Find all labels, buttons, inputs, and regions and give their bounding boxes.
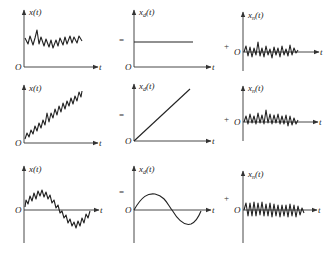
t-axis-label: t — [212, 136, 215, 146]
origin-label: O — [15, 62, 22, 72]
row2-noise-plot: xn(t) O t — [234, 83, 322, 141]
row1-noise-plot: xn(t) O t — [234, 10, 323, 71]
origin-label: O — [125, 62, 132, 72]
signal-trace — [25, 30, 82, 48]
t-axis-label: t — [320, 47, 323, 57]
t-axis-label: t — [318, 205, 321, 215]
origin-label: O — [15, 205, 22, 215]
row3-total-plot: x(t) O t — [15, 164, 103, 243]
y-axis-label: xn(t) — [247, 83, 264, 94]
origin-label: O — [234, 205, 241, 215]
noise-trace — [244, 42, 298, 58]
y-axis-label: xd(t) — [138, 164, 155, 175]
row1-total-plot: x(t) O t — [15, 7, 102, 72]
row2-total-plot: x(t) O t — [15, 83, 102, 148]
y-axis-label: x(t) — [28, 83, 42, 93]
noise-trace — [244, 110, 298, 126]
equals-sign: = — [119, 35, 124, 45]
plus-sign: + — [224, 193, 229, 203]
row3-noise-plot: xn(t) O t — [234, 169, 321, 243]
y-axis-label: x(t) — [28, 164, 42, 174]
origin-label: O — [234, 117, 241, 127]
plus-sign: + — [224, 114, 229, 124]
origin-label: O — [125, 136, 132, 146]
linear-trend-line — [134, 89, 190, 141]
noise-trace — [244, 202, 304, 217]
equals-sign: = — [119, 110, 124, 120]
sinusoid-curve — [134, 194, 201, 225]
t-axis-label: t — [212, 205, 215, 215]
origin-label: O — [125, 205, 132, 215]
y-axis-label: xn(t) — [247, 10, 264, 21]
t-axis-label: t — [212, 62, 215, 72]
t-axis-label: t — [99, 62, 102, 72]
t-axis-label: t — [319, 117, 322, 127]
y-axis-label: xd(t) — [138, 7, 155, 18]
plus-sign: + — [224, 41, 229, 51]
row2-deterministic-plot: xd(t) O t — [125, 81, 215, 146]
t-axis-label: t — [100, 205, 103, 215]
y-axis-label: xn(t) — [247, 169, 264, 180]
origin-label: O — [234, 47, 241, 57]
y-axis-label: x(t) — [28, 7, 42, 17]
signal-trace — [25, 91, 82, 139]
equals-sign: = — [119, 187, 124, 197]
signal-decomposition-diagram: x(t) O t = xd(t) O t + xn(t) O t x(t) O … — [0, 0, 330, 258]
row3-deterministic-plot: xd(t) O t — [125, 164, 215, 243]
t-axis-label: t — [99, 138, 102, 148]
signal-trace — [25, 190, 90, 228]
row1-deterministic-plot: xd(t) O t — [125, 7, 215, 72]
y-axis-label: xd(t) — [138, 81, 155, 92]
origin-label: O — [15, 138, 22, 148]
